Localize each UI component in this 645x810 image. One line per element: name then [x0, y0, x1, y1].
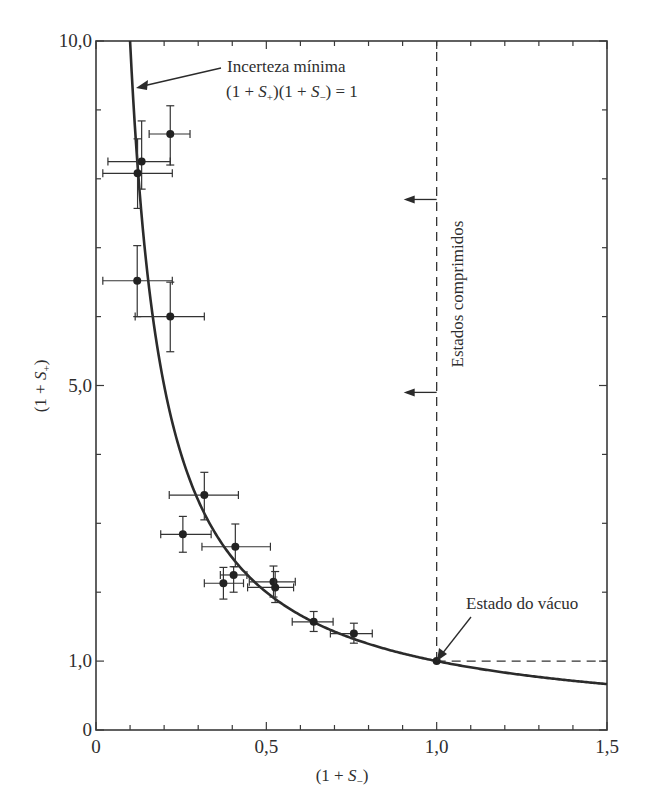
- point-marker: [200, 491, 208, 499]
- arrow-line: [442, 617, 471, 654]
- x-tick-label: 0,5: [254, 736, 278, 757]
- point-marker: [310, 618, 318, 626]
- x-tick-label: 0: [91, 736, 101, 757]
- left-arrow-icon: [404, 195, 415, 203]
- point-marker: [134, 169, 142, 177]
- point-marker: [138, 158, 146, 166]
- point-marker: [350, 630, 358, 638]
- point-marker: [231, 543, 239, 551]
- data-point: [249, 566, 295, 597]
- axis-tick-labels: 00,51,01,501,05,010,0: [59, 30, 619, 757]
- point-marker: [166, 130, 174, 138]
- x-tick-label: 1,0: [425, 736, 449, 757]
- point-marker: [230, 571, 238, 579]
- point-marker: [219, 579, 227, 587]
- y-tick-label: 1,0: [68, 650, 92, 671]
- point-marker: [271, 583, 279, 591]
- point-marker: [179, 530, 187, 538]
- x-tick-label: 1,5: [595, 736, 619, 757]
- left-arrow-icon: [404, 388, 415, 396]
- arrow-head-icon: [136, 80, 148, 90]
- point-marker: [133, 277, 141, 285]
- squeezed-states-label: Estados comprimidos: [448, 221, 467, 368]
- data-points: [103, 106, 441, 665]
- data-point: [103, 139, 172, 209]
- annotation-squeezed-states: Estados comprimidos: [404, 195, 467, 396]
- left-arrow-icons: [404, 195, 437, 396]
- y-axis-label: (1 + S+): [31, 360, 52, 413]
- plot-frame: [96, 41, 607, 730]
- data-point: [103, 246, 172, 317]
- vacuum-state-label: Estado do vácuo: [466, 594, 578, 613]
- min-uncertainty-curve: [130, 41, 607, 684]
- y-tick-label: 5,0: [68, 375, 92, 396]
- annotation-min-uncertainty-title: Incerteza mínima: [227, 57, 346, 76]
- point-marker: [166, 313, 174, 321]
- arrow-line: [143, 68, 221, 86]
- chart: 00,51,01,501,05,010,0 (1 + S−) (1 + S+) …: [0, 0, 645, 810]
- data-point: [248, 572, 294, 603]
- data-point: [330, 623, 372, 643]
- annotation-min-uncertainty-formula: (1 + S+)(1 + S−) = 1: [226, 82, 358, 103]
- data-point: [204, 567, 243, 599]
- x-axis-label: (1 + S−): [316, 766, 369, 787]
- data-point: [149, 106, 190, 165]
- data-point: [169, 472, 238, 520]
- y-tick-label: 10,0: [59, 30, 92, 51]
- data-point: [135, 282, 204, 352]
- annotation-vacuum-state: Estado do vácuo: [437, 594, 578, 661]
- annotation-min-uncertainty: Incerteza mínima (1 + S+)(1 + S−) = 1: [136, 57, 358, 103]
- axis-ticks: [96, 41, 607, 730]
- y-tick-label: 0: [83, 719, 93, 740]
